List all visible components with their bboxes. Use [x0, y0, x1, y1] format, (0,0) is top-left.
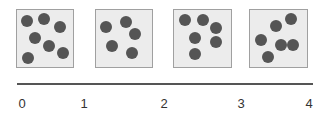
dot: [54, 21, 66, 33]
dot-box-1: [17, 10, 74, 68]
dot: [120, 16, 132, 28]
dot: [189, 32, 201, 44]
dot: [129, 28, 141, 40]
dot: [106, 40, 118, 52]
dot: [179, 14, 191, 26]
dot: [210, 36, 222, 48]
dot-box-3: [174, 10, 232, 68]
dot-box-4: [250, 10, 308, 68]
dot-box-2: [96, 10, 153, 68]
tick-label-1: 1: [80, 96, 87, 112]
tick-label-0: 0: [18, 96, 25, 112]
dot: [21, 15, 33, 27]
dot: [197, 14, 209, 26]
dot: [100, 21, 112, 33]
dot: [285, 13, 297, 25]
dot: [38, 13, 50, 25]
dot: [262, 51, 274, 63]
dot: [126, 47, 138, 59]
dot: [275, 39, 287, 51]
dot: [270, 20, 282, 32]
dot: [287, 39, 299, 51]
dot: [210, 22, 222, 34]
dot: [255, 34, 267, 46]
tick-label-3: 3: [237, 96, 244, 112]
dot: [189, 48, 201, 60]
tick-label-2: 2: [160, 96, 167, 112]
dot: [43, 40, 55, 52]
dot: [22, 52, 34, 64]
dot: [57, 47, 69, 59]
dot: [29, 32, 41, 44]
tick-label-4: 4: [305, 96, 312, 112]
